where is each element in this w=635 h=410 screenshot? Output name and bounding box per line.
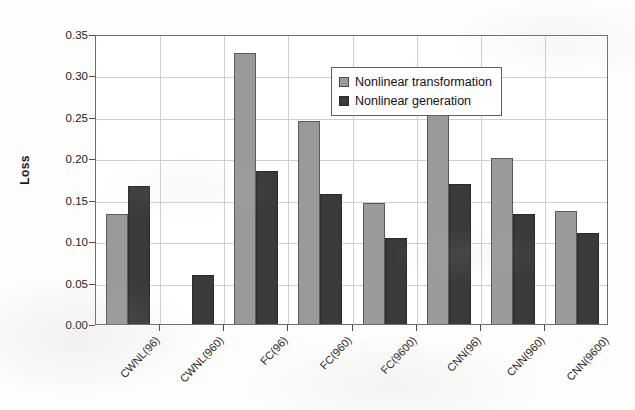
y-axis-tick: [89, 35, 95, 36]
y-axis-tick: [89, 159, 95, 160]
legend-color-swatch: [339, 77, 349, 87]
x-axis-tick: [287, 325, 288, 331]
x-axis-tick: [223, 325, 224, 331]
x-axis-tick-label: CWNL(96): [118, 334, 162, 380]
x-axis-tick: [159, 325, 160, 331]
x-axis-tick-label: CWNL(960): [178, 334, 226, 385]
x-axis-tick: [480, 325, 481, 331]
x-axis-tick-label: FC(9600): [378, 334, 418, 376]
legend-item: Nonlinear generation: [339, 91, 492, 110]
y-axis-tick: [89, 201, 95, 202]
legend-item-label: Nonlinear transformation: [355, 75, 492, 89]
legend: Nonlinear transformationNonlinear genera…: [331, 67, 502, 116]
y-axis-tick: [89, 325, 95, 326]
y-axis-tick: [89, 76, 95, 77]
x-axis-labels: CWNL(96)CWNL(960)FC(96)FC(960)FC(9600)CN…: [0, 0, 635, 410]
x-axis-tick-label: FC(96): [258, 334, 290, 367]
x-axis-tick: [416, 325, 417, 331]
y-axis-tick: [89, 242, 95, 243]
x-axis-tick-label: CNN(960): [504, 334, 547, 378]
x-axis-tick: [352, 325, 353, 331]
legend-item: Nonlinear transformation: [339, 72, 492, 91]
bar-chart-figure: Loss 0.350.300.250.200.150.100.050.00 No…: [0, 0, 635, 410]
legend-color-swatch: [339, 96, 349, 106]
x-axis-tick-label: CNN(96): [444, 334, 482, 374]
legend-item-label: Nonlinear generation: [355, 94, 471, 108]
x-axis-tick-label: FC(960): [318, 334, 354, 372]
y-axis-tick: [89, 284, 95, 285]
x-axis-tick: [544, 325, 545, 331]
x-axis-tick-label: CNN(9600): [564, 334, 611, 383]
y-axis-tick: [89, 118, 95, 119]
